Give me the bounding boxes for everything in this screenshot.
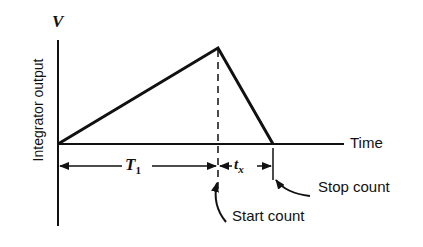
y-axis-label: Integrator output: [30, 59, 46, 162]
start-count-label: Start count: [232, 207, 305, 224]
y-axis-symbol: V: [52, 12, 63, 32]
integrator-waveform: [58, 48, 273, 144]
t1-subscript: 1: [135, 164, 141, 176]
interval-tx-label: tx: [232, 156, 246, 175]
stop-count-pointer-arrow: [276, 180, 310, 196]
dual-slope-integrator-diagram: V Integrator output Time T1 tx Stop coun…: [0, 0, 423, 247]
x-axis-label: Time: [350, 134, 383, 151]
t1-symbol: T: [125, 155, 135, 174]
diagram-graphics: [0, 0, 423, 247]
tx-subscript: x: [238, 163, 244, 175]
interval-t1-label: T1: [122, 155, 144, 176]
stop-count-label: Stop count: [318, 178, 390, 195]
